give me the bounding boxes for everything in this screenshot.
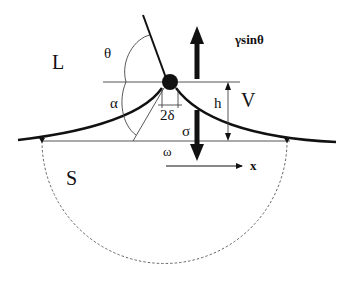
alpha-label: α	[110, 96, 118, 111]
diagram-drawing	[0, 0, 351, 282]
liquid-vapor-interface	[143, 15, 166, 78]
region-vapor-label: V	[241, 90, 255, 110]
stress-down-shaft	[195, 110, 200, 146]
force-up-shaft	[195, 42, 200, 79]
stress-label: σ	[182, 124, 190, 139]
solid-surface-left	[18, 88, 162, 140]
region-liquid-label: L	[52, 52, 64, 72]
force-up-head	[190, 26, 204, 44]
region-solid-label: S	[66, 168, 77, 188]
triple-line-diagram: L V S θ α γsinθ h 2δ σ ω x	[0, 0, 351, 282]
height-label: h	[214, 96, 222, 111]
solid-surface-right	[176, 88, 336, 142]
theta-label: θ	[104, 46, 111, 61]
stress-down-head	[190, 144, 204, 161]
particle	[162, 74, 178, 90]
alpha-arc	[122, 82, 136, 135]
force-up-label: γsinθ	[235, 33, 264, 46]
omega-label: ω	[163, 145, 172, 158]
theta-arc	[125, 35, 150, 82]
width-label: 2δ	[160, 108, 175, 123]
x-axis-label: x	[250, 159, 257, 172]
